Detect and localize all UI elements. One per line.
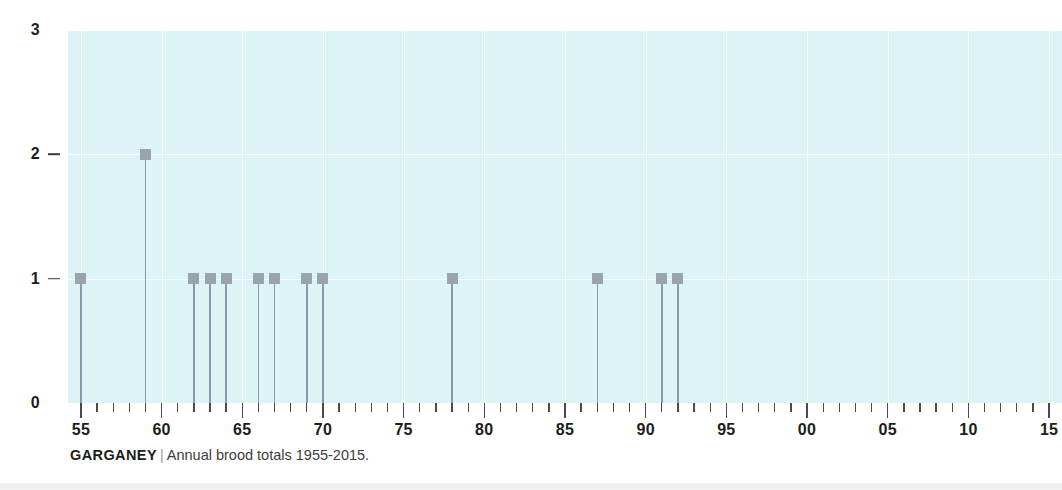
- x-tick-minor: [693, 403, 694, 412]
- x-tick-label: 75: [394, 421, 412, 439]
- x-tick-label: 05: [879, 421, 897, 439]
- vertical-gridline: [646, 30, 647, 403]
- data-point-marker[interactable]: [140, 149, 151, 160]
- x-tick-label: 00: [798, 421, 816, 439]
- x-tick-major: [645, 403, 646, 418]
- data-point-marker[interactable]: [317, 273, 328, 284]
- x-tick-minor: [823, 403, 824, 412]
- x-tick-major: [887, 403, 888, 418]
- x-tick-major: [968, 403, 969, 418]
- y-tick-dash: [48, 278, 60, 280]
- y-axis: 0123: [0, 0, 68, 420]
- x-tick-minor: [984, 403, 985, 412]
- data-point-marker[interactable]: [656, 273, 667, 284]
- y-tick-label: 2: [31, 145, 40, 163]
- y-tick-label: 1: [31, 270, 40, 288]
- x-tick-label: 60: [152, 421, 170, 439]
- data-point-marker[interactable]: [205, 273, 216, 284]
- data-point-marker[interactable]: [188, 273, 199, 284]
- vertical-gridline: [807, 30, 808, 403]
- x-tick-minor: [387, 403, 388, 412]
- vertical-gridline: [888, 30, 889, 403]
- x-tick-minor: [661, 403, 662, 412]
- y-tick-dash: [48, 154, 60, 156]
- x-tick-minor: [516, 403, 517, 412]
- horizontal-gridline: [68, 279, 1062, 280]
- data-point-marker[interactable]: [592, 273, 603, 284]
- data-point-marker[interactable]: [301, 273, 312, 284]
- x-tick-label: 80: [475, 421, 493, 439]
- x-tick-major: [80, 403, 81, 418]
- x-tick-major: [242, 403, 243, 418]
- x-tick-minor: [580, 403, 581, 412]
- x-tick-minor: [790, 403, 791, 412]
- caption-species: GARGANEY: [70, 447, 157, 463]
- vertical-gridline: [565, 30, 566, 403]
- x-tick-minor: [419, 403, 420, 412]
- x-tick-label: 55: [72, 421, 90, 439]
- x-tick-minor: [306, 403, 307, 412]
- x-tick-minor: [919, 403, 920, 412]
- chart-caption: GARGANEY|Annual brood totals 1955-2015.: [70, 447, 369, 463]
- x-tick-minor: [952, 403, 953, 412]
- x-tick-major: [322, 403, 323, 418]
- x-tick-minor: [145, 403, 146, 412]
- caption-description: Annual brood totals 1955-2015.: [167, 447, 369, 463]
- x-tick-minor: [290, 403, 291, 412]
- vertical-gridline: [484, 30, 485, 403]
- x-tick-minor: [710, 403, 711, 412]
- data-point-marker[interactable]: [447, 273, 458, 284]
- data-stem: [209, 279, 210, 403]
- data-stem: [661, 279, 662, 403]
- x-tick-minor: [371, 403, 372, 412]
- x-tick-minor: [548, 403, 549, 412]
- x-tick-minor: [258, 403, 259, 412]
- x-tick-minor: [500, 403, 501, 412]
- data-stem: [451, 279, 452, 403]
- x-tick-major: [564, 403, 565, 418]
- x-tick-minor: [435, 403, 436, 412]
- data-point-marker[interactable]: [75, 273, 86, 284]
- data-stem: [597, 279, 598, 403]
- x-tick-minor: [96, 403, 97, 412]
- x-tick-major: [484, 403, 485, 418]
- x-tick-label: 10: [959, 421, 977, 439]
- x-tick-minor: [209, 403, 210, 412]
- x-tick-minor: [193, 403, 194, 412]
- x-tick-minor: [935, 403, 936, 412]
- x-axis: 55606570758085909500051015: [0, 403, 1062, 453]
- x-tick-major: [403, 403, 404, 418]
- data-stem: [193, 279, 194, 403]
- x-tick-label: 70: [314, 421, 332, 439]
- x-tick-minor: [742, 403, 743, 412]
- data-stem: [225, 279, 226, 403]
- x-tick-label: 85: [556, 421, 574, 439]
- x-tick-minor: [129, 403, 130, 412]
- horizontal-gridline: [68, 154, 1062, 155]
- x-tick-label: 95: [717, 421, 735, 439]
- x-tick-major: [806, 403, 807, 418]
- data-stem: [306, 279, 307, 403]
- data-stem: [80, 279, 81, 403]
- x-tick-minor: [613, 403, 614, 412]
- x-tick-label: 65: [233, 421, 251, 439]
- x-tick-minor: [468, 403, 469, 412]
- vertical-gridline: [1049, 30, 1050, 403]
- x-tick-minor: [855, 403, 856, 412]
- x-tick-minor: [774, 403, 775, 412]
- x-tick-minor: [355, 403, 356, 412]
- x-tick-major: [1048, 403, 1049, 418]
- vertical-gridline: [726, 30, 727, 403]
- data-point-marker[interactable]: [221, 273, 232, 284]
- x-tick-minor: [1032, 403, 1033, 412]
- x-tick-minor: [338, 403, 339, 412]
- x-tick-minor: [597, 403, 598, 412]
- x-tick-minor: [1000, 403, 1001, 412]
- y-tick-label: 3: [31, 21, 40, 39]
- data-point-marker[interactable]: [253, 273, 264, 284]
- x-tick-label: 90: [636, 421, 654, 439]
- x-tick-minor: [451, 403, 452, 412]
- data-point-marker[interactable]: [672, 273, 683, 284]
- data-point-marker[interactable]: [269, 273, 280, 284]
- x-tick-minor: [839, 403, 840, 412]
